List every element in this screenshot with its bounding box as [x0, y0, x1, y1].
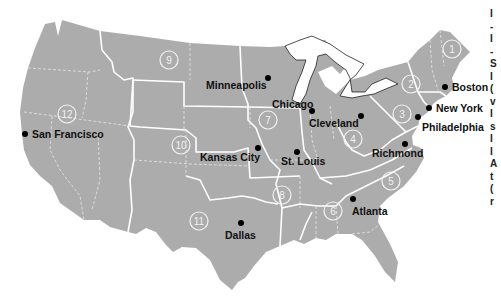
- svg-text:8: 8: [279, 190, 285, 201]
- svg-text:4: 4: [350, 134, 356, 145]
- edge-text-line: -: [490, 46, 501, 59]
- svg-text:2: 2: [408, 79, 414, 90]
- edge-text-line: I: [490, 146, 501, 159]
- svg-text:Boston: Boston: [452, 81, 488, 93]
- edge-text-line: s: [490, 121, 501, 134]
- svg-text:12: 12: [61, 109, 73, 120]
- svg-text:Richmond: Richmond: [372, 147, 423, 159]
- edge-text-line: S: [490, 58, 501, 71]
- city-new-york: New York: [426, 102, 483, 114]
- svg-text:11: 11: [194, 216, 205, 227]
- svg-text:5: 5: [388, 176, 394, 187]
- edge-text-line: I: [490, 71, 501, 84]
- svg-text:Atlanta: Atlanta: [352, 205, 388, 217]
- edge-text-line: I: [490, 108, 501, 121]
- svg-text:Philadelphia: Philadelphia: [422, 121, 484, 133]
- svg-text:St. Louis: St. Louis: [281, 155, 325, 167]
- svg-text:Cleveland: Cleveland: [309, 117, 359, 129]
- edge-text-line: t: [490, 171, 501, 184]
- us-map-svg: 1 2 3 4 5 6 7 8 9 10 11 12 Boston New Yo…: [0, 0, 501, 300]
- edge-text-line: v: [490, 96, 501, 109]
- svg-text:7: 7: [265, 115, 271, 126]
- edge-text-line: (: [490, 83, 501, 96]
- svg-text:10: 10: [175, 140, 187, 151]
- svg-text:San Francisco: San Francisco: [32, 128, 104, 140]
- city-dot-icon: [238, 220, 244, 226]
- svg-text:6: 6: [330, 206, 336, 217]
- city-dot-icon: [426, 105, 432, 111]
- city-dot-icon: [22, 131, 28, 137]
- city-dot-icon: [358, 113, 364, 119]
- city-dot-icon: [415, 114, 421, 120]
- federal-reserve-map: 1 2 3 4 5 6 7 8 9 10 11 12 Boston New Yo…: [0, 0, 501, 300]
- svg-text:Kansas City: Kansas City: [200, 151, 260, 163]
- city-san-francisco: San Francisco: [22, 128, 104, 140]
- edge-text-line: I: [490, 8, 501, 21]
- edge-text-line: (: [490, 183, 501, 196]
- edge-text-line: A: [490, 158, 501, 171]
- svg-text:New York: New York: [436, 102, 483, 114]
- edge-text-line: I: [490, 33, 501, 46]
- edge-text-line: I: [490, 133, 501, 146]
- edge-text-line: -: [490, 21, 501, 34]
- svg-text:Chicago: Chicago: [272, 98, 313, 110]
- city-philadelphia: Philadelphia: [415, 114, 484, 133]
- city-dot-icon: [350, 196, 356, 202]
- svg-text:Dallas: Dallas: [225, 229, 256, 241]
- svg-text:1: 1: [449, 44, 455, 55]
- svg-text:Minneapolis: Minneapolis: [206, 79, 267, 91]
- clipped-side-text: I - I - S I ( v I s I I A t ( r: [490, 8, 501, 208]
- svg-text:3: 3: [399, 109, 405, 120]
- svg-text:9: 9: [166, 55, 172, 66]
- city-dot-icon: [442, 84, 448, 90]
- edge-text-line: r: [490, 196, 501, 209]
